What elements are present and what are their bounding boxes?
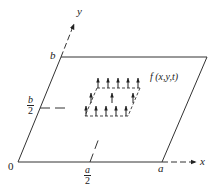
- b-half-label: b 2: [27, 95, 34, 116]
- a-half-guide: [90, 138, 99, 162]
- a-label: a: [158, 163, 164, 174]
- force-arrows-middle-row: [91, 93, 133, 103]
- y-axis-arrow: [61, 24, 74, 57]
- force-arrows-front-row: [86, 106, 126, 116]
- a-half-label: a 2: [84, 165, 91, 186]
- x-axis-label: x: [200, 156, 205, 167]
- y-axis-label: y: [77, 6, 82, 17]
- b-half-denominator: 2: [27, 106, 34, 116]
- plate-outline: [18, 57, 207, 162]
- a-half-denominator: 2: [84, 176, 91, 186]
- load-label: f (x,y,t): [150, 72, 178, 82]
- origin-label: 0: [8, 161, 14, 172]
- force-arrows-back-row: [98, 78, 138, 88]
- b-label: b: [50, 50, 56, 61]
